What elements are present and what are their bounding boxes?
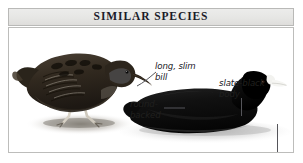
water-rail-illustration <box>12 54 152 135</box>
panel-content: long, slim bill round- backed slate-blac… <box>8 27 294 153</box>
annotation-slate-black-body: slate-black body <box>219 78 265 99</box>
page-title: SIMILAR SPECIES <box>94 11 209 23</box>
similar-species-panel: SIMILAR SPECIES <box>0 0 303 163</box>
annotation-long-slim-bill: long, slim bill <box>155 61 196 82</box>
annotation-round-backed: round- backed <box>130 99 161 120</box>
leader-line-slate-black-body <box>241 98 242 116</box>
panel-header: SIMILAR SPECIES <box>8 8 294 26</box>
leader-line-white-bill <box>277 124 278 153</box>
